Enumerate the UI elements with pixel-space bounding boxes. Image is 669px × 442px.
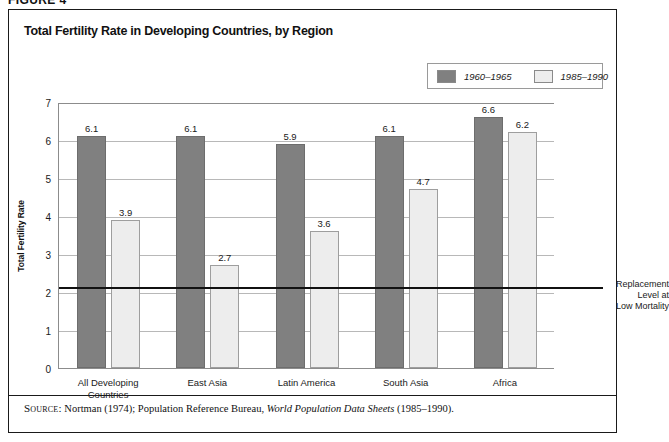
bar[interactable]: 4.7 [409,189,438,368]
plot-area: 01234567 6.13.9All DevelopingCountries6.… [58,103,554,369]
bar[interactable]: 2.7 [210,265,239,368]
bar-group: 6.13.9All DevelopingCountries [77,103,140,368]
y-tick-label-6: 6 [45,136,51,147]
chart-legend: 1960–1965 1985–1990 [427,63,603,89]
y-tick-label-3: 3 [45,250,51,261]
bar-value-label: 6.1 [383,123,396,134]
bar-group: 6.14.7South Asia [375,103,438,368]
y-tick-label-7: 7 [45,98,51,109]
source-text-after: (1985–1990). [397,403,454,414]
bar-value-label: 6.1 [85,123,98,134]
replacement-level-line [59,287,603,289]
legend-swatch-dark-icon [437,70,456,83]
y-tick-label-2: 2 [45,288,51,299]
bar-value-label: 5.9 [283,131,296,142]
y-axis-title: Total Fertility Rate [16,200,26,272]
bar-value-label: 6.6 [482,104,495,115]
x-axis-category-line: Latin America [252,377,362,389]
source-note: Source: Nortman (1974); Population Refer… [24,402,454,414]
x-axis-category-label: South Asia [351,377,461,389]
bar[interactable]: 6.1 [176,136,205,368]
y-tick-label-5: 5 [45,174,51,185]
replacement-note-line-2: Level at [607,290,669,301]
figure-frame: Total Fertility Rate in Developing Count… [8,9,617,433]
figure-number: FIGURE 4 [8,0,67,7]
bar-value-label: 3.9 [119,207,132,218]
chart-title: Total Fertility Rate in Developing Count… [24,24,333,38]
plot-wrap: 01234567 6.13.9All DevelopingCountries6.… [58,103,554,369]
bar[interactable]: 5.9 [276,144,305,368]
bar-value-label: 3.6 [317,218,330,229]
x-axis-category-line: All Developing [53,377,163,389]
legend-item-1985-1990: 1985–1990 [534,64,609,88]
legend-item-1960-1965: 1960–1965 [437,64,512,88]
bar[interactable]: 6.1 [77,136,106,368]
x-axis-category-label: All DevelopingCountries [53,377,163,400]
legend-label-1985-1990: 1985–1990 [561,71,609,82]
y-tick-label-0: 0 [45,364,51,375]
x-axis-category-label: Africa [450,377,560,389]
source-divider [9,395,616,396]
bar-group: 5.93.6Latin America [276,103,339,368]
bar-value-label: 2.7 [218,252,231,263]
x-axis-category-line: East Asia [152,377,262,389]
source-italic-title: World Population Data Sheets [267,403,395,414]
x-axis-category-line: South Asia [351,377,461,389]
x-axis-category-label: East Asia [152,377,262,389]
y-tick-label-1: 1 [45,326,51,337]
legend-swatch-light-icon [534,70,553,83]
bar-group: 6.66.2Africa [474,103,537,368]
source-kicker: Source: [24,402,62,414]
x-axis-category-line: Africa [450,377,560,389]
bar[interactable]: 6.1 [375,136,404,368]
legend-label-1960-1965: 1960–1965 [464,71,512,82]
bar[interactable]: 3.9 [111,220,140,368]
bar-value-label: 6.2 [516,119,529,130]
bar-value-label: 6.1 [184,123,197,134]
bar[interactable]: 3.6 [310,231,339,368]
source-text-before: Nortman (1974); Population Reference Bur… [64,403,264,414]
bar-value-label: 4.7 [417,176,430,187]
replacement-note-line-1: Replacement [607,279,669,290]
bar-group: 6.12.7East Asia [176,103,239,368]
y-tick-label-4: 4 [45,212,51,223]
bar[interactable]: 6.2 [508,132,537,368]
x-axis-category-label: Latin America [252,377,362,389]
replacement-level-annotation: Replacement Level at Low Mortality [607,279,669,312]
replacement-note-line-3: Low Mortality [607,301,669,312]
bar[interactable]: 6.6 [474,117,503,368]
